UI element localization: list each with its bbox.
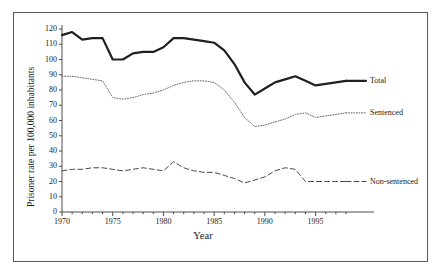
- x-axis-tick-label: 1975: [97, 218, 129, 226]
- data-series: [62, 32, 366, 183]
- y-axis-tick-label: 100: [34, 56, 57, 64]
- x-axis-tick-label: 1980: [147, 218, 179, 226]
- y-axis-tick-label: 60: [34, 117, 57, 125]
- y-axis-tick-label: 10: [34, 193, 57, 201]
- chart-frame: 0102030405060708090100110120197019751980…: [13, 12, 428, 262]
- series-label-non-sentenced: Non-sentenced: [370, 178, 418, 186]
- x-axis-tick-label: 1990: [249, 218, 281, 226]
- y-axis-tick-label: 120: [34, 25, 57, 33]
- y-axis-tick-label: 90: [34, 71, 57, 79]
- series-label-sentenced: Sentenced: [370, 109, 403, 117]
- series-line-total: [62, 32, 346, 95]
- y-axis-tick-label: 30: [34, 162, 57, 170]
- y-axis-title: Prisoner rate per 100,000 inhabitants: [26, 67, 36, 207]
- y-axis-tick-label: 20: [34, 178, 57, 186]
- y-axis-tick-label: 70: [34, 101, 57, 109]
- y-axis-tick-label: 110: [34, 40, 57, 48]
- x-axis-title: Year: [61, 230, 345, 241]
- series-line-sentenced: [62, 76, 346, 126]
- y-axis-tick-label: 50: [34, 132, 57, 140]
- y-axis-tick-label: 80: [34, 86, 57, 94]
- x-axis-tick-label: 1985: [198, 218, 230, 226]
- axes: [59, 25, 374, 216]
- series-line-non-sentenced: [62, 162, 346, 183]
- figure-container: 0102030405060708090100110120197019751980…: [0, 0, 441, 275]
- x-axis-tick-label: 1970: [46, 218, 78, 226]
- y-axis-tick-label: 0: [34, 208, 57, 216]
- x-axis-tick-label: 1995: [300, 218, 332, 226]
- series-label-total: Total: [370, 77, 386, 85]
- y-axis-tick-label: 40: [34, 147, 57, 155]
